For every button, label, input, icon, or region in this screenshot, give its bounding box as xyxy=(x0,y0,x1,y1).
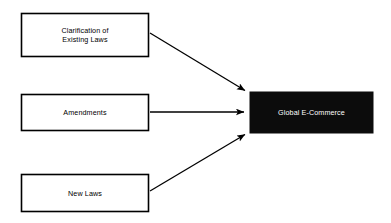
arrow-new-laws-to-global xyxy=(150,135,245,192)
node-clarification-of-existing-laws[interactable] xyxy=(22,14,149,57)
node-new-laws[interactable] xyxy=(22,175,149,212)
node-amendments[interactable] xyxy=(22,95,149,131)
node-global-e-commerce[interactable] xyxy=(250,92,373,133)
diagram-canvas: Clarification of Existing Laws Amendment… xyxy=(0,0,391,223)
arrow-clarification-to-global xyxy=(150,33,245,91)
diagram-vector-layer xyxy=(0,0,391,223)
